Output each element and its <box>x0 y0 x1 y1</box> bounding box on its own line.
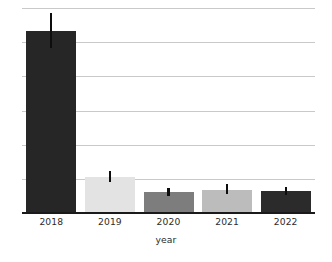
error-bar-2021 <box>226 184 228 194</box>
x-tick-label-2022: 2022 <box>256 216 316 227</box>
bar-chart: 20182019202020212022 year <box>0 0 332 262</box>
x-axis-title: year <box>0 234 332 245</box>
x-tick-label-2019: 2019 <box>80 216 140 227</box>
bar-2018[interactable] <box>26 31 76 213</box>
x-tick-label-2020: 2020 <box>139 216 199 227</box>
error-bar-2019 <box>109 171 111 183</box>
plot-area <box>22 8 315 214</box>
error-bar-2020 <box>167 188 169 196</box>
error-bar-2022 <box>285 187 287 195</box>
x-axis-line <box>22 212 315 214</box>
gridline <box>22 8 315 9</box>
bar-2019[interactable] <box>85 177 135 213</box>
error-bar-2018 <box>50 13 52 48</box>
x-tick-label-2021: 2021 <box>197 216 257 227</box>
x-tick-label-2018: 2018 <box>21 216 81 227</box>
